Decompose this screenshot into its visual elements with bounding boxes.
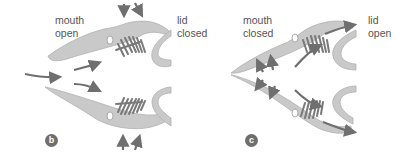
operculum-upper [333, 30, 356, 70]
panel-mouth-open-lid-closed: mouth open lid closed b [0, 0, 207, 156]
mouth-label-line2: closed [243, 27, 273, 40]
mouth-label-line2: open [55, 27, 84, 40]
mouth-state-label: mouth open [55, 14, 84, 40]
operculum-lower [333, 86, 356, 124]
gill-filaments-upper [116, 37, 145, 56]
lid-state-label: lid open [368, 14, 391, 40]
panel-mouth-closed-lid-open: mouth closed lid open c [203, 0, 410, 156]
lid-label-line2: open [368, 27, 391, 40]
panel-badge-b: b [45, 134, 58, 147]
mouth-label-line1: mouth [243, 14, 273, 27]
operculum-upper [152, 30, 171, 67]
panel-badge-c: c [245, 134, 258, 147]
mouth-state-label: mouth closed [243, 14, 273, 40]
gill-ventilation-diagram-b [0, 0, 207, 156]
mouth-label-line1: mouth [55, 14, 84, 27]
lid-label-line1: lid [368, 14, 391, 27]
lower-jaw [45, 87, 168, 129]
